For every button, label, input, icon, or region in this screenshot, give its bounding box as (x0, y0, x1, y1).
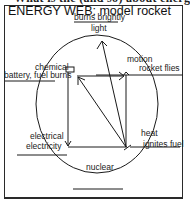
electrical-example-label: electricity (26, 142, 61, 151)
light-example-label: burns brightly (74, 13, 125, 22)
arrow-heat-to-chemical (78, 77, 126, 147)
nuclear-form-label: nuclear (86, 163, 114, 172)
light-form-label: light (91, 24, 107, 33)
motion-example-label: rocket flies (139, 64, 180, 73)
heat-form-label: heat (141, 129, 158, 138)
arrow-heat-to-light (102, 41, 126, 147)
chemical-example-label: battery, fuel burns (4, 71, 71, 80)
electrical-form-label: electrical (30, 132, 64, 141)
heat-example-label: ignites fuel (143, 140, 184, 149)
